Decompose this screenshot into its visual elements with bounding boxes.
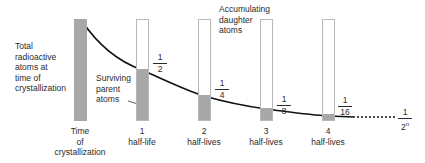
bar-half-life-2 (198, 19, 211, 121)
fraction-half: 12 (153, 53, 167, 74)
x-label-2: 2half-lives (179, 126, 229, 147)
bar-half-life-1 (136, 19, 149, 121)
surviving-parent-label: Survivingparentatoms (96, 73, 131, 105)
total-atoms-label: Totalradioactiveatoms attime ofcrystalli… (15, 41, 66, 94)
x-label-1: 1half-life (117, 126, 167, 147)
x-label-4: 4half-lives (303, 126, 353, 147)
fraction-limit: 12n (398, 108, 412, 132)
fraction-sixteenth: 116 (338, 96, 352, 117)
daughter-atoms-label: Accumulatingdaughteratoms (219, 4, 270, 36)
fraction-eighth: 18 (277, 95, 291, 116)
x-label-3: 3half-lives (241, 126, 291, 147)
bar-half-life-4 (322, 19, 335, 121)
fraction-quarter: 14 (215, 79, 229, 100)
x-label-crystallization: Timeofcrystallization (50, 126, 110, 158)
bar-crystallization (74, 19, 87, 121)
